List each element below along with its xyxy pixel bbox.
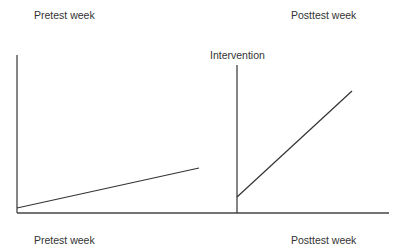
pretest-trend-line <box>17 168 199 208</box>
posttest-trend-line <box>237 91 352 197</box>
interrupted-time-series-diagram: Pretest week Posttest week Intervention … <box>0 0 404 250</box>
diagram-canvas <box>0 0 404 250</box>
